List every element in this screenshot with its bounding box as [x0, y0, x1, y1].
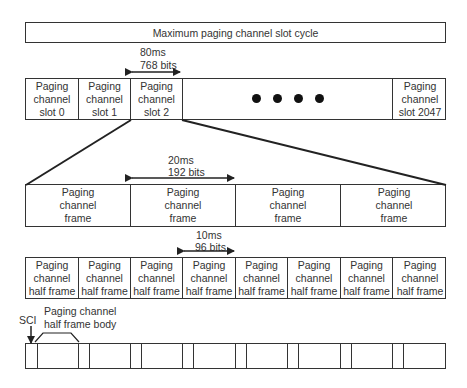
body-segment	[247, 344, 288, 368]
slot-duration-label: 80ms	[140, 46, 166, 59]
half-frame-2: Pagingchannelhalf frame	[79, 258, 131, 298]
half-frame-body-row	[25, 343, 446, 369]
half-frame-body-label-line2: half frame body	[44, 318, 116, 331]
frame-1: Pagingchannelframe	[26, 185, 131, 226]
sci-segment	[79, 344, 90, 368]
expand-line-left	[26, 120, 131, 185]
slot-0: Pagingchannelslot 0	[26, 79, 79, 119]
half-frame-5: Pagingchannelhalf frame	[236, 258, 288, 298]
body-bracket	[35, 333, 79, 342]
expand-line-right	[182, 120, 446, 185]
slot-2: Pagingchannelslot 2	[131, 79, 183, 119]
frame-3: Pagingchannelframe	[236, 185, 341, 226]
body-segment	[299, 344, 341, 368]
body-segment	[90, 344, 131, 368]
sci-segment	[183, 344, 194, 368]
body-segment	[352, 344, 393, 368]
slot-2047: Pagingchannelslot 2047	[393, 79, 447, 119]
body-segment	[404, 344, 447, 368]
ellipsis-dots-icon	[246, 93, 330, 106]
sci-segment	[288, 344, 299, 368]
half-frame-3: Pagingchannelhalf frame	[131, 258, 183, 298]
frame-bits-label: 192 bits	[168, 166, 205, 179]
slot-1: Pagingchannelslot 1	[79, 79, 131, 119]
frame-4: Pagingchannelframe	[341, 185, 447, 226]
sci-segment	[236, 344, 247, 368]
sci-segment	[393, 344, 404, 368]
half-frame-body-label-line1: Paging channel	[44, 305, 116, 318]
slot-ellipsis	[183, 79, 393, 119]
half-frame-1: Pagingchannelhalf frame	[26, 258, 79, 298]
body-segment	[38, 344, 79, 368]
sci-label: SCI	[19, 314, 37, 327]
max-slot-cycle-label: Maximum paging channel slot cycle	[153, 27, 319, 39]
frame-row: Pagingchannelframe Pagingchannelframe Pa…	[25, 184, 446, 227]
max-slot-cycle-box: Maximum paging channel slot cycle	[25, 22, 446, 43]
frame-2: Pagingchannelframe	[131, 185, 236, 226]
slot-row: Pagingchannelslot 0 Pagingchannelslot 1 …	[25, 78, 446, 120]
sci-segment	[131, 344, 142, 368]
body-segment	[194, 344, 236, 368]
half-frame-bits-label: 96 bits	[195, 241, 226, 254]
sci-segment	[341, 344, 352, 368]
body-segment	[142, 344, 183, 368]
half-frame-6: Pagingchannelhalf frame	[288, 258, 341, 298]
half-frame-7: Pagingchannelhalf frame	[341, 258, 393, 298]
half-frame-row: Pagingchannelhalf frame Pagingchannelhal…	[25, 257, 446, 299]
sci-segment	[26, 344, 38, 368]
half-frame-4: Pagingchannelhalf frame	[183, 258, 236, 298]
slot-bits-label: 768 bits	[140, 59, 177, 72]
half-frame-8: Pagingchannelhalf frame	[393, 258, 447, 298]
